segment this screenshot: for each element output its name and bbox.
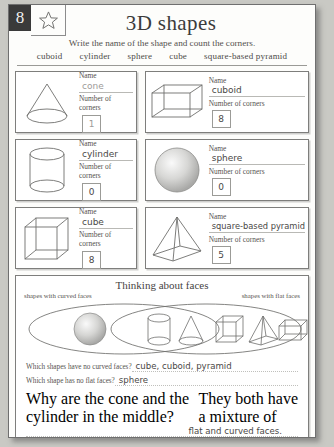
shape-card-fields: Name cube Number of corners 8 xyxy=(78,207,136,268)
corners-label: Number of corners xyxy=(79,162,133,181)
corners-answer-sphere[interactable]: 0 xyxy=(212,178,231,196)
corners-label: Number of corners xyxy=(79,94,133,113)
question-row-1: Which shapes have no curved faces? cube,… xyxy=(16,361,308,372)
venn-labels: shapes with curved faces shapes with fla… xyxy=(16,291,308,299)
question-prompt-1: Which shapes have no curved faces? xyxy=(26,363,132,372)
name-answer-cylinder[interactable]: cylinder xyxy=(79,149,133,161)
word-bank: cuboid cylinder sphere cube square-based… xyxy=(9,51,315,61)
name-answer-cuboid[interactable]: cuboid xyxy=(209,85,305,97)
shape-card-fields: Name cuboid Number of corners 8 xyxy=(208,76,308,128)
word-bank-item: square-based pyramid xyxy=(204,51,287,61)
corners-answer-pyramid[interactable]: 5 xyxy=(212,246,231,264)
sphere-figure xyxy=(146,141,208,199)
name-answer-pyramid[interactable]: square-based pyramid xyxy=(209,221,305,233)
name-answer-cube[interactable]: cube xyxy=(79,217,133,229)
shape-card-grid: Name cone Number of corners 1 xyxy=(15,71,309,269)
question-prompt-3: Why are the cone and the cylinder in the… xyxy=(26,390,198,426)
corners-answer-cuboid[interactable]: 8 xyxy=(212,110,231,128)
word-bank-item: cylinder xyxy=(79,51,110,61)
shape-card-pyramid: Name square-based pyramid Number of corn… xyxy=(145,207,309,269)
question-prompt-2: Which shape has no flat faces? xyxy=(26,377,115,386)
shape-card-cube: Name cube Number of corners 8 xyxy=(15,207,137,269)
cylinder-figure xyxy=(16,141,78,199)
name-label: Name xyxy=(209,144,305,153)
word-bank-item: cube xyxy=(169,51,187,61)
shape-card-cylinder: Name cylinder Number of corners 0 xyxy=(15,139,137,201)
shape-card-fields: Name cone Number of corners 1 xyxy=(78,71,136,132)
name-label: Name xyxy=(209,212,305,221)
shape-card-sphere: Name sphere Number of corners 0 xyxy=(145,139,309,201)
pyramid-figure xyxy=(146,209,208,267)
name-label: Name xyxy=(79,139,133,148)
question-answer-2[interactable]: sphere xyxy=(115,375,298,386)
shape-card-cuboid: Name cuboid Number of corners 8 xyxy=(145,71,309,133)
star-badge xyxy=(31,5,66,36)
name-answer-sphere[interactable]: sphere xyxy=(209,153,305,165)
name-label: Name xyxy=(79,71,133,80)
name-label: Name xyxy=(79,207,133,216)
page-number: 8 xyxy=(9,5,31,31)
cone-figure xyxy=(16,73,78,131)
corners-answer-cube[interactable]: 8 xyxy=(82,251,101,269)
corners-label: Number of corners xyxy=(209,235,305,244)
page-subtitle: Write the name of the shape and count th… xyxy=(9,38,315,48)
header-divider xyxy=(17,65,307,66)
corners-label: Number of corners xyxy=(209,167,305,176)
word-bank-item: sphere xyxy=(128,51,153,61)
shape-card-fields: Name square-based pyramid Number of corn… xyxy=(208,212,308,264)
venn-right-label: shapes with flat faces xyxy=(242,292,300,299)
thinking-about-faces-panel: Thinking about faces shapes with curved … xyxy=(15,275,309,438)
cuboid-figure xyxy=(146,73,208,131)
corners-label: Number of corners xyxy=(79,230,133,249)
faces-section-title: Thinking about faces xyxy=(16,276,308,291)
question-row-2: Which shape has no flat faces? sphere xyxy=(16,375,308,386)
star-icon xyxy=(38,10,59,31)
corners-answer-cylinder[interactable]: 0 xyxy=(82,183,101,201)
worksheet-page: 8 3D shapes Write the name of the shape … xyxy=(8,4,316,438)
cube-figure xyxy=(16,209,78,267)
word-bank-item: cuboid xyxy=(37,51,63,61)
venn-diagram xyxy=(16,300,308,358)
venn-left-label: shapes with curved faces xyxy=(24,292,92,299)
question-answer-3-line1[interactable]: They both have a mixture of xyxy=(198,390,298,426)
corners-label: Number of corners xyxy=(209,99,305,108)
name-answer-cone[interactable]: cone xyxy=(79,81,133,93)
corners-answer-cone[interactable]: 1 xyxy=(82,115,101,133)
name-label: Name xyxy=(209,76,305,85)
shape-card-fields: Name sphere Number of corners 0 xyxy=(208,144,308,196)
page-title: 3D shapes xyxy=(27,5,315,36)
shape-card-fields: Name cylinder Number of corners 0 xyxy=(78,139,136,200)
shape-card-cone: Name cone Number of corners 1 xyxy=(15,71,137,133)
question-row-3: Why are the cone and the cylinder in the… xyxy=(16,390,308,437)
question-answer-3-line2[interactable]: flat and curved faces. xyxy=(26,426,298,437)
question-answer-1[interactable]: cube, cuboid, pyramid xyxy=(132,361,298,372)
